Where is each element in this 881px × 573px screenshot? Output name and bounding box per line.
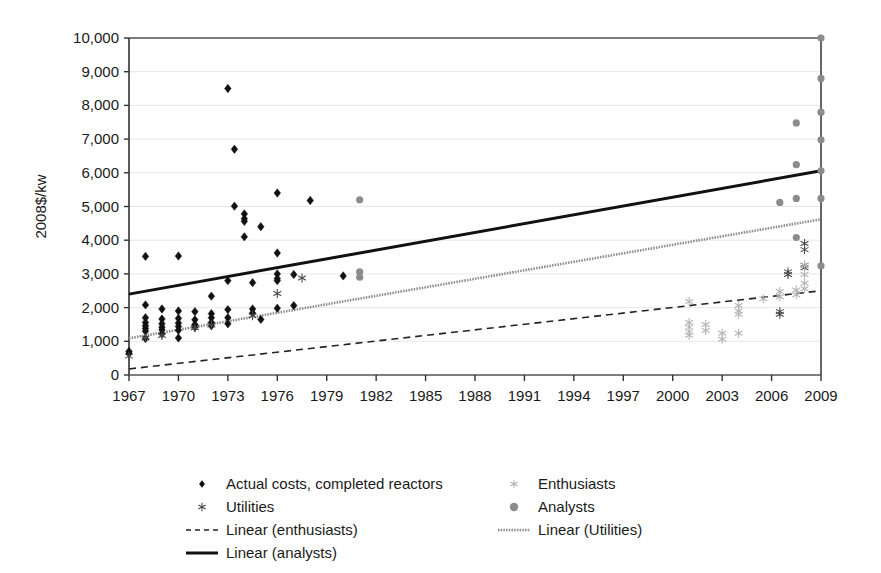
legend-item[interactable]: Actual costs, completed reactors: [199, 475, 442, 492]
marker-circle: [817, 109, 824, 116]
x-tick-label: 1994: [557, 387, 590, 404]
y-axis-title: 2008$/kw: [32, 174, 49, 238]
y-tick-label: 2,000: [81, 299, 119, 316]
y-tick-label: 1,000: [81, 332, 119, 349]
x-tick-label: 1997: [607, 387, 640, 404]
x-tick-label: 1991: [508, 387, 541, 404]
legend-label: Linear (analysts): [226, 544, 337, 561]
chart-figure: 01,0002,0003,0004,0005,0006,0007,0008,00…: [0, 0, 881, 573]
legend-label: Linear (enthusiasts): [226, 521, 358, 538]
legend-label: Actual costs, completed reactors: [226, 475, 443, 492]
y-tick-label: 8,000: [81, 96, 119, 113]
y-tick-label: 3,000: [81, 265, 119, 282]
marker-circle: [793, 119, 800, 126]
y-tick-label: 4,000: [81, 231, 119, 248]
x-tick-label: 1970: [162, 387, 195, 404]
legend-label: Utilities: [226, 498, 274, 515]
marker-circle: [510, 503, 518, 511]
y-tick-label: 10,000: [73, 29, 119, 46]
y-tick-label: 9,000: [81, 63, 119, 80]
x-tick-label: 2009: [804, 387, 837, 404]
marker-circle: [817, 167, 824, 174]
y-tick-label: 7,000: [81, 130, 119, 147]
marker-circle: [356, 274, 363, 281]
legend-label: Linear (Utilities): [538, 521, 642, 538]
marker-circle: [776, 199, 783, 206]
y-tick-label: 5,000: [81, 198, 119, 215]
marker-circle: [817, 262, 824, 269]
y-axis-title-text: 2008$/kw: [32, 174, 49, 238]
marker-circle: [793, 195, 800, 202]
y-tick-label: 0: [111, 366, 119, 383]
marker-circle: [817, 195, 824, 202]
marker-circle: [793, 234, 800, 241]
x-tick-label: 1973: [211, 387, 244, 404]
x-tick-label: 1967: [112, 387, 145, 404]
marker-circle: [817, 34, 824, 41]
marker-circle: [356, 196, 363, 203]
nuclear-cost-scatter-chart: 01,0002,0003,0004,0005,0006,0007,0008,00…: [0, 0, 881, 573]
x-tick-label: 2006: [755, 387, 788, 404]
legend-label: Enthusiasts: [538, 475, 616, 492]
x-axis-tick-labels: 1967197019731976197919821985198819911994…: [112, 387, 837, 404]
marker-circle: [817, 136, 824, 143]
marker-circle: [793, 161, 800, 168]
x-tick-label: 2003: [705, 387, 738, 404]
marker-circle: [817, 75, 824, 82]
x-tick-label: 2000: [656, 387, 689, 404]
y-tick-label: 6,000: [81, 164, 119, 181]
x-tick-label: 1985: [409, 387, 442, 404]
x-tick-label: 1979: [310, 387, 343, 404]
x-tick-label: 1982: [359, 387, 392, 404]
legend-label: Analysts: [538, 498, 595, 515]
x-tick-label: 1988: [458, 387, 491, 404]
x-tick-label: 1976: [261, 387, 294, 404]
